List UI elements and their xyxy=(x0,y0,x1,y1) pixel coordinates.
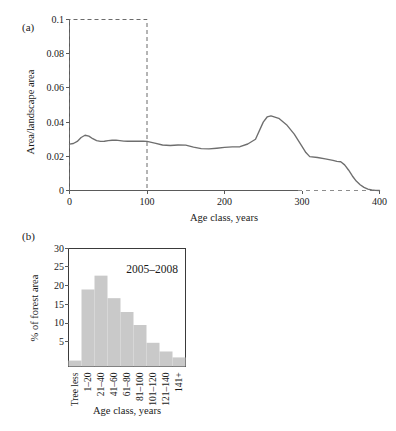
panel-b-xlabel: Age class, years xyxy=(93,405,161,416)
panel-a-x-ticks xyxy=(70,191,380,195)
bar xyxy=(134,325,147,366)
panel-a-ylabel: Area/landscape area xyxy=(25,69,36,154)
bar xyxy=(82,289,95,366)
panel-a-ytick-4: 0.08 xyxy=(47,48,65,59)
panel-b-label: (b) xyxy=(22,230,35,243)
panel-b-bars xyxy=(69,276,186,367)
bar xyxy=(121,312,134,367)
category-label: 1–20 xyxy=(83,372,93,391)
panel-a-xlabel: Age class, years xyxy=(190,212,258,223)
panel-a-xtick-4: 400 xyxy=(372,196,387,207)
panel-a: (a) Area/landscape area 0 0.02 0.04 0.06… xyxy=(22,14,387,223)
panel-b-ytick-30: 30 xyxy=(54,243,64,254)
figure-container: (a) Area/landscape area 0 0.02 0.04 0.06… xyxy=(0,0,396,431)
panel-a-ytick-2: 0.04 xyxy=(47,117,65,128)
category-label: 21–40 xyxy=(96,372,106,396)
category-label: 61–80 xyxy=(122,372,132,396)
panel-b-ytick-10: 10 xyxy=(54,317,64,328)
category-label: 141+ xyxy=(174,373,184,393)
bar xyxy=(108,298,121,366)
panel-b-ytick-15: 15 xyxy=(54,299,64,310)
panel-a-ytick-1: 0.02 xyxy=(47,151,65,162)
panel-a-label: (a) xyxy=(22,21,35,34)
panel-a-series-line xyxy=(70,116,380,191)
bar xyxy=(173,357,186,366)
panel-a-ytick-0: 0 xyxy=(59,185,64,196)
panel-a-xtick-3: 300 xyxy=(295,196,310,207)
category-label: 41–60 xyxy=(109,372,119,396)
bar xyxy=(147,343,160,367)
bar xyxy=(160,351,173,366)
figure-svg: (a) Area/landscape area 0 0.02 0.04 0.06… xyxy=(0,0,396,431)
category-label: 101–120 xyxy=(148,372,158,406)
panel-b-category-labels: Tree less1–2021–4041–6061–8081–100101–12… xyxy=(70,372,184,406)
panel-b: (b) % of forest area 30 25 20 15 10 5 xyxy=(22,230,186,416)
category-label: 81–100 xyxy=(135,372,145,401)
panel-a-ytick-5: 0.1 xyxy=(52,14,65,25)
bar xyxy=(69,361,82,367)
category-label: 121–140 xyxy=(161,372,171,406)
bar xyxy=(95,276,108,367)
category-label: Tree less xyxy=(70,372,80,406)
reference-box-annotation xyxy=(70,20,148,191)
panel-a-xtick-2: 200 xyxy=(217,196,232,207)
panel-a-ytick-3: 0.06 xyxy=(47,82,65,93)
panel-b-ylabel: % of forest area xyxy=(29,274,40,341)
panel-b-ytick-5: 5 xyxy=(59,336,64,347)
panel-a-xtick-0: 0 xyxy=(67,196,72,207)
panel-b-ytick-25: 25 xyxy=(54,261,64,272)
panel-b-annotation: 2005–2008 xyxy=(126,263,178,275)
panel-b-y-ticks xyxy=(65,248,69,342)
panel-a-y-ticks xyxy=(66,20,70,191)
panel-a-xtick-1: 100 xyxy=(140,196,155,207)
panel-b-ytick-20: 20 xyxy=(54,280,64,291)
